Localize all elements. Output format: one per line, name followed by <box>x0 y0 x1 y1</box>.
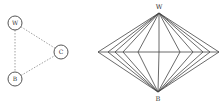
bottom-vertex-label: B <box>156 95 161 103</box>
edge-top-to-point-1 <box>108 13 159 52</box>
edge-point-6-to-bottom <box>158 52 180 92</box>
edge-b-c <box>21 56 55 76</box>
edge-point-10-to-bottom <box>158 52 219 92</box>
edge-top-to-point-9 <box>159 13 210 52</box>
edge-top-to-point-7 <box>159 13 193 52</box>
node-c-label: C <box>59 48 64 55</box>
edge-top-to-point-10 <box>159 13 219 52</box>
edge-point-5-to-bottom <box>158 52 159 92</box>
edge-point-7-to-bottom <box>158 52 193 92</box>
top-vertex-label: W <box>156 3 163 11</box>
right-graph: WB <box>98 3 219 103</box>
edge-top-to-point-2 <box>115 13 159 52</box>
edge-point-2-to-bottom <box>115 52 158 92</box>
edge-point-1-to-bottom <box>108 52 158 92</box>
left-graph: WCB <box>8 16 68 86</box>
node-b-label: B <box>13 75 18 82</box>
edge-top-to-point-8 <box>159 13 203 52</box>
edge-point-8-to-bottom <box>158 52 203 92</box>
edge-point-9-to-bottom <box>158 52 210 92</box>
node-w-label: W <box>12 19 19 26</box>
edge-top-to-point-6 <box>159 13 180 52</box>
edge-w-c <box>21 27 55 49</box>
diagram-canvas: WCB WB <box>0 0 222 107</box>
